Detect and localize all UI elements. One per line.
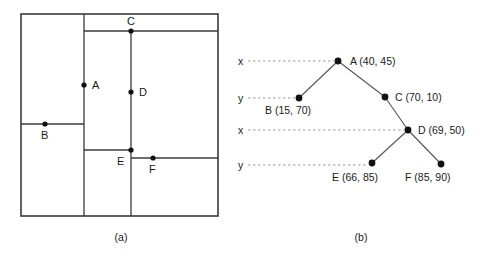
caption-b: (b) <box>355 231 368 243</box>
partition-point-label-a: A <box>92 79 100 91</box>
tree-node-label-d: D (69, 50) <box>418 124 465 136</box>
kd-tree-diagram: xyxyA (40, 45)B (15, 70)C (70, 10)D (69,… <box>238 55 465 183</box>
tree-axis-label-3-y: y <box>238 159 244 171</box>
tree-node-b <box>296 95 303 102</box>
partition-point-label-e: E <box>117 155 124 167</box>
tree-node-label-f: F (85, 90) <box>405 171 451 183</box>
tree-node-label-b: B (15, 70) <box>265 104 311 116</box>
tree-node-a <box>335 58 342 65</box>
tree-node-d <box>405 127 412 134</box>
partition-point-label-d: D <box>139 86 147 98</box>
partition-point-c <box>128 28 133 33</box>
partition-point-f <box>150 155 155 160</box>
tree-axis-label-2-x: x <box>238 124 244 136</box>
tree-node-label-e: E (66, 85) <box>332 171 378 183</box>
partition-point-e <box>128 147 133 152</box>
partition-point-b <box>42 121 47 126</box>
tree-edge-a-b <box>299 61 338 98</box>
tree-node-label-c: C (70, 10) <box>395 91 442 103</box>
partition-point-label-f: F <box>149 163 156 175</box>
tree-node-e <box>369 160 376 167</box>
partition-point-a <box>81 82 86 87</box>
tree-node-f <box>438 161 445 168</box>
figure-root: ABCDEF xyxyA (40, 45)B (15, 70)C (70, 10… <box>0 0 494 259</box>
partition-point-d <box>128 89 133 94</box>
figure-canvas: ABCDEF xyxyA (40, 45)B (15, 70)C (70, 10… <box>0 0 494 259</box>
caption-a: (a) <box>115 231 128 243</box>
partition-point-label-b: B <box>41 129 48 141</box>
tree-edge-d-e <box>372 130 408 163</box>
partition-point-label-c: C <box>127 15 135 27</box>
tree-node-c <box>382 94 389 101</box>
tree-axis-label-1-y: y <box>238 92 244 104</box>
tree-node-label-a: A (40, 45) <box>350 55 396 67</box>
space-partition-diagram: ABCDEF <box>21 14 218 216</box>
tree-axis-label-0-x: x <box>238 55 244 67</box>
partition-outer-rectangle <box>21 14 218 216</box>
